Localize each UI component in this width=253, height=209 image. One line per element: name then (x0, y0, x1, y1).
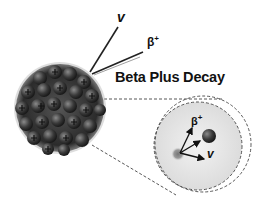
charge-symbol: + (198, 113, 203, 122)
zoom-positron-label: β+ (191, 113, 202, 127)
diagram-graphics (0, 0, 253, 209)
positron-label: β+ (147, 34, 159, 49)
charge-symbol: + (154, 34, 159, 43)
emission-rays (90, 27, 143, 75)
zoom-inset (154, 96, 251, 192)
beta-plus-decay-diagram: Beta Plus Decay v β+ β+ v (0, 0, 253, 209)
beta-symbol: β (191, 115, 198, 127)
nucleus (14, 62, 106, 156)
neutron (202, 129, 216, 143)
diagram-title: Beta Plus Decay (115, 69, 225, 85)
neutrino-label: v (117, 9, 125, 25)
zoom-neutrino-label: v (207, 147, 214, 161)
neutrino-symbol: v (117, 9, 125, 25)
